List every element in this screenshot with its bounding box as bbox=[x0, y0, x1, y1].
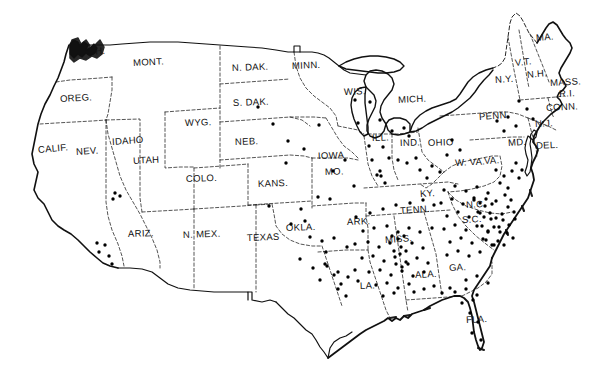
border-minn-wis bbox=[294, 52, 338, 126]
border-ut-az bbox=[142, 209, 194, 212]
border-tx-east bbox=[322, 246, 342, 306]
border-oh-wv-pa bbox=[418, 128, 444, 172]
map-outline-svg bbox=[0, 0, 596, 381]
border-ar-ms bbox=[366, 203, 368, 250]
border-vt-nh bbox=[519, 30, 529, 88]
gulf-barrier-3 bbox=[424, 308, 430, 310]
border-ia-il bbox=[326, 118, 358, 158]
border-ny-vt-nh bbox=[508, 37, 520, 100]
border-mo-ar bbox=[312, 203, 366, 206]
border-in-oh bbox=[392, 134, 398, 180]
border-co-nm bbox=[194, 205, 256, 209]
atlantic-coast-northeast bbox=[537, 22, 572, 122]
border-sd-ne bbox=[220, 117, 310, 126]
border-ky-tn bbox=[364, 182, 458, 188]
border-nc-sc bbox=[448, 192, 512, 214]
border-id-wy-mt bbox=[165, 108, 220, 112]
border-ga-fl bbox=[462, 262, 492, 296]
lake-erie bbox=[386, 118, 410, 135]
border-wy-co bbox=[194, 164, 248, 168]
border-la-ms bbox=[368, 250, 390, 318]
gulf-barrier-1 bbox=[390, 317, 396, 318]
cape-fear-shore bbox=[522, 206, 524, 211]
border-sc-ga bbox=[448, 192, 494, 250]
lake-ontario bbox=[410, 68, 493, 132]
atlantic-coast-south bbox=[492, 122, 543, 258]
border-ca-nv bbox=[106, 120, 160, 268]
border-wa-or bbox=[56, 77, 112, 82]
border-ar-la bbox=[318, 250, 368, 252]
border-or-ca-nv bbox=[40, 120, 106, 124]
gulf-coast bbox=[328, 258, 492, 358]
border-ms-al bbox=[394, 216, 408, 312]
border-wv-va bbox=[444, 156, 500, 172]
border-wy-box bbox=[165, 112, 194, 168]
minnesota-northwest-angle bbox=[294, 46, 300, 52]
border-ks-ok bbox=[248, 201, 312, 205]
gulf-barrier-2 bbox=[404, 315, 410, 316]
southern-border-west bbox=[118, 268, 248, 300]
border-minn-ia bbox=[290, 117, 326, 118]
border-ia-mo bbox=[312, 158, 358, 160]
border-va-nc bbox=[448, 156, 502, 192]
pacific-coast bbox=[32, 45, 118, 268]
outer-banks bbox=[530, 190, 532, 196]
border-ne-ks bbox=[220, 155, 312, 160]
border-ok-tx bbox=[256, 204, 322, 246]
border-al-ga bbox=[424, 212, 442, 296]
border-id-ut-nv bbox=[106, 120, 124, 266]
border-tn-al-ms-ga bbox=[366, 210, 450, 216]
border-pa-md-va bbox=[470, 137, 524, 140]
dot-distribution-map: WASH.OREG.CALIF.NEV.IDAHOUTAHARIZ.N. MEX… bbox=[0, 0, 596, 381]
border-wv-ky bbox=[420, 172, 444, 188]
border-nh-me bbox=[530, 34, 549, 82]
new-mexico-texas-border bbox=[248, 292, 276, 302]
sea-islands-shore bbox=[506, 230, 508, 235]
border-wa-id bbox=[106, 77, 112, 120]
northern-border-maine bbox=[493, 13, 537, 68]
border-pa-ny bbox=[440, 112, 528, 118]
border-il-in bbox=[364, 136, 378, 186]
lake-michigan bbox=[351, 87, 368, 136]
border-nv-ut bbox=[106, 119, 142, 212]
border-nd-sd bbox=[220, 79, 290, 84]
